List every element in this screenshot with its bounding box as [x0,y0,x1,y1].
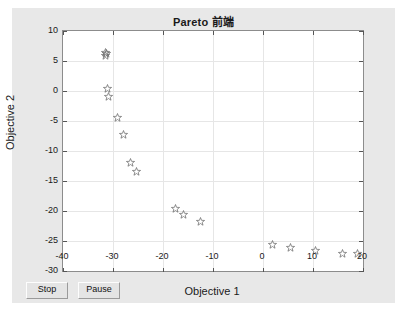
y-axis-label: Objective 2 [4,95,16,150]
x-tick [163,268,164,272]
y-tick-label: -10 [45,145,58,155]
y-tick-label: 5 [53,55,58,65]
y-tick-label: -20 [45,205,58,215]
x-tick-label: -30 [105,251,118,261]
y-tick-label: 10 [48,25,58,35]
data-point-marker [132,167,141,176]
gridline-horizontal [63,211,363,212]
x-tick-label: -40 [55,251,68,261]
y-tick-label: -15 [45,175,58,185]
y-tick-right [359,181,363,182]
x-tick-label: 10 [307,251,317,261]
y-tick-label: -25 [45,235,58,245]
data-point-marker [101,51,110,60]
y-tick-right [359,61,363,62]
y-tick [63,91,67,92]
x-tick [213,268,214,272]
y-tick-right [359,121,363,122]
y-tick [63,241,67,242]
x-tick [113,268,114,272]
x-tick-label: 0 [259,251,264,261]
gridline-horizontal [63,61,363,62]
y-tick [63,61,67,62]
gridline-horizontal [63,91,363,92]
x-tick-top [263,31,264,35]
data-point-marker [338,249,347,258]
data-point-marker [119,130,128,139]
data-point-marker [126,158,135,167]
y-tick [63,121,67,122]
y-tick-label: 0 [53,85,58,95]
gridline-horizontal [63,151,363,152]
plot-title: Pareto 前端 [12,13,395,29]
y-tick [63,271,67,272]
y-tick-right [359,151,363,152]
y-tick-label: -5 [50,115,58,125]
data-point-marker [102,49,111,58]
figure-button-bar: Stop Pause [26,282,120,299]
data-point-marker [286,243,295,252]
plot-axes [62,30,364,272]
y-tick [63,151,67,152]
x-tick [263,268,264,272]
gridline-horizontal [63,181,363,182]
gridline-horizontal [63,121,363,122]
x-tick-top [113,31,114,35]
x-tick [363,268,364,272]
x-tick-top [163,31,164,35]
y-tick [63,181,67,182]
stop-button[interactable]: Stop [26,282,68,299]
y-tick-right [359,211,363,212]
x-tick-top [313,31,314,35]
y-tick-right [359,271,363,272]
y-tick-label: -30 [45,265,58,275]
y-tick-right [359,31,363,32]
matlab-figure-panel: Pareto 前端 -40-30-20-1001020 1050-5-10-15… [12,8,395,303]
y-tick-right [359,91,363,92]
data-point-marker [196,217,205,226]
gridline-horizontal [63,241,363,242]
data-point-marker [104,92,113,101]
y-tick-right [359,241,363,242]
y-tick [63,211,67,212]
data-point-marker [101,48,110,57]
x-tick-label: 20 [357,251,367,261]
x-tick-top [363,31,364,35]
x-tick-top [213,31,214,35]
x-tick-label: -10 [205,251,218,261]
x-tick-label: -20 [155,251,168,261]
pause-button[interactable]: Pause [78,282,120,299]
y-tick [63,31,67,32]
x-tick [313,268,314,272]
